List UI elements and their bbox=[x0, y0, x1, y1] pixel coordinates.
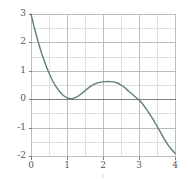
x-tick-label: 1 bbox=[57, 161, 77, 170]
y-tick-label: 1 bbox=[20, 66, 26, 75]
y-tick-label: -1 bbox=[17, 123, 26, 132]
x-tick-label: 2 bbox=[93, 161, 113, 170]
y-tick-label: 3 bbox=[20, 9, 26, 18]
x-tick-label: 0 bbox=[21, 161, 41, 170]
axis-tick-marks bbox=[29, 15, 176, 160]
x-tick-label: 4 bbox=[165, 161, 185, 170]
x-tick-label: 3 bbox=[129, 161, 149, 170]
y-tick-label: 0 bbox=[20, 94, 26, 103]
x-axis-label: t bbox=[93, 173, 113, 179]
plot-canvas bbox=[0, 0, 188, 179]
y-tick-label: 2 bbox=[20, 37, 26, 46]
y-tick-label: -2 bbox=[17, 151, 26, 160]
chart-figure: -2-10123 01234 t bbox=[0, 0, 188, 179]
